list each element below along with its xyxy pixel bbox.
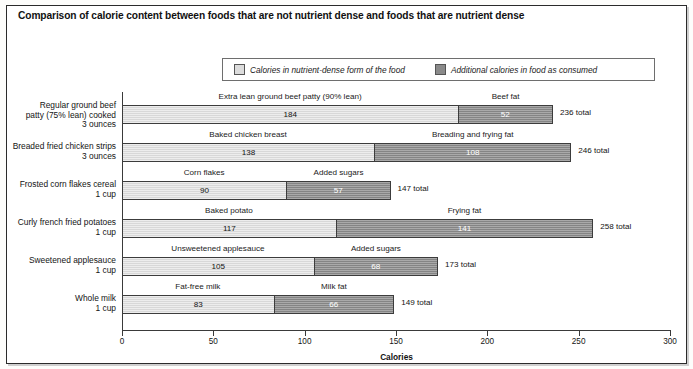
stacked-bar[interactable]: 8366 — [122, 295, 394, 314]
segment-labels: Corn flakesAdded sugars — [122, 168, 670, 181]
x-axis-tick-labels: 050100150200250300 — [122, 337, 671, 349]
bar-segment-light-value: 105 — [212, 262, 226, 271]
segment-labels: Extra lean ground beef patty (90% lean)B… — [122, 92, 670, 105]
bar-segment-dark-value: 108 — [466, 148, 480, 157]
category-label-2: Breaded fried chicken strips 3 ounces — [0, 130, 116, 168]
segment-label-dark: Frying fat — [448, 206, 482, 215]
category-label-text: Regular ground beef patty (75% lean) coo… — [26, 101, 116, 130]
bar-segment-dark[interactable]: 57 — [286, 182, 389, 199]
bar-segment-light[interactable]: 90 — [123, 182, 286, 199]
bar-segment-light[interactable]: 117 — [123, 220, 336, 237]
x-axis-title: Calories — [122, 352, 671, 362]
plot-area: Extra lean ground beef patty (90% lean)B… — [122, 92, 670, 329]
bar-segment-dark-value: 141 — [458, 224, 472, 233]
bar-segment-dark-value: 68 — [371, 262, 380, 271]
bar-segment-dark[interactable]: 66 — [274, 296, 394, 313]
x-axis-tick — [122, 331, 123, 336]
segment-label-light: Extra lean ground beef patty (90% lean) — [219, 92, 362, 101]
category-label-text: Curly french fried potatoes 1 cup — [18, 218, 116, 237]
segment-labels: Unsweetened applesauceAdded sugars — [122, 244, 670, 257]
bar-segment-dark-value: 52 — [501, 110, 510, 119]
segment-labels: Fat-free milkMilk fat — [122, 282, 670, 295]
category-label-text: Whole milk 1 cup — [75, 294, 116, 313]
segment-label-dark: Added sugars — [313, 168, 363, 177]
legend-swatch-light-icon — [234, 64, 245, 75]
category-label-4: Curly french fried potatoes 1 cup — [0, 206, 116, 244]
category-label-text: Breaded fried chicken strips 3 ounces — [13, 142, 116, 161]
category-label-text: Sweetened applesauce 1 cup — [29, 256, 116, 275]
bar-segment-dark[interactable]: 108 — [374, 144, 570, 161]
bar-segment-dark-value: 66 — [329, 300, 338, 309]
bar-segment-light[interactable]: 184 — [123, 106, 458, 123]
bar-row: Baked potatoFrying fat117141258 total — [122, 206, 670, 244]
bar-segment-light-value: 83 — [194, 300, 203, 309]
bar-segment-dark[interactable]: 68 — [314, 258, 437, 275]
segment-label-dark: Milk fat — [321, 282, 347, 291]
stacked-bar[interactable]: 138108 — [122, 143, 571, 162]
stacked-bar[interactable]: 9057 — [122, 181, 391, 200]
bar-total-label: 173 total — [445, 260, 476, 269]
segment-label-light: Fat-free milk — [175, 282, 220, 291]
x-axis-tick-label: 50 — [209, 337, 218, 346]
bar-total-label: 236 total — [560, 108, 591, 117]
segment-label-dark: Added sugars — [351, 244, 401, 253]
bar-segment-light-value: 117 — [223, 224, 236, 233]
bar-row: Baked chicken breastBreading and frying … — [122, 130, 670, 168]
legend-label-light: Calories in nutrient-dense form of the f… — [250, 65, 405, 75]
category-label-3: Frosted corn flakes cereal 1 cup — [0, 168, 116, 206]
bar-rows: Extra lean ground beef patty (90% lean)B… — [122, 92, 670, 320]
x-axis-tick — [579, 331, 580, 336]
bar-row: Extra lean ground beef patty (90% lean)B… — [122, 92, 670, 130]
x-axis-tick-label: 0 — [120, 337, 125, 346]
legend-item-nutrient-dense: Calories in nutrient-dense form of the f… — [234, 64, 405, 75]
legend-label-dark: Additional calories in food as consumed — [451, 65, 597, 75]
x-axis-tick-label: 250 — [572, 337, 586, 346]
bar-segment-dark[interactable]: 52 — [458, 106, 553, 123]
bar-segment-light[interactable]: 83 — [123, 296, 274, 313]
category-label-5: Sweetened applesauce 1 cup — [0, 244, 116, 282]
stacked-bar[interactable]: 10568 — [122, 257, 438, 276]
bar-row: Fat-free milkMilk fat8366149 total — [122, 282, 670, 320]
category-label-text: Frosted corn flakes cereal 1 cup — [20, 180, 116, 199]
bar-segment-light-value: 184 — [284, 110, 298, 119]
segment-label-dark: Beef fat — [492, 92, 520, 101]
segment-label-dark: Breading and frying fat — [432, 130, 513, 139]
bar-total-label: 246 total — [578, 146, 609, 155]
stacked-bar[interactable]: 117141 — [122, 219, 593, 238]
x-axis-tick — [670, 331, 671, 336]
category-label-1: Regular ground beef patty (75% lean) coo… — [0, 92, 116, 130]
category-axis-labels: Regular ground beef patty (75% lean) coo… — [0, 92, 116, 320]
segment-label-light: Unsweetened applesauce — [171, 244, 264, 253]
x-axis-tick-label: 300 — [663, 337, 677, 346]
bar-segment-dark[interactable]: 141 — [336, 220, 592, 237]
legend-item-additional: Additional calories in food as consumed — [435, 64, 597, 75]
category-label-6: Whole milk 1 cup — [0, 282, 116, 320]
stacked-bar[interactable]: 18452 — [122, 105, 553, 124]
bar-segment-dark-value: 57 — [334, 186, 343, 195]
bar-total-label: 147 total — [398, 184, 429, 193]
legend-swatch-dark-icon — [435, 64, 446, 75]
bar-segment-light-value: 90 — [200, 186, 209, 195]
bar-segment-light[interactable]: 138 — [123, 144, 374, 161]
bar-segment-light[interactable]: 105 — [123, 258, 314, 275]
chart-title: Comparison of calorie content between fo… — [18, 10, 524, 21]
bar-row: Corn flakesAdded sugars9057147 total — [122, 168, 670, 206]
chart-page: Comparison of calorie content between fo… — [0, 0, 693, 369]
bar-row: Unsweetened applesauceAdded sugars105681… — [122, 244, 670, 282]
chart-legend: Calories in nutrient-dense form of the f… — [222, 58, 655, 81]
x-axis-tick-label: 150 — [389, 337, 403, 346]
x-axis-tick — [305, 331, 306, 336]
bar-total-label: 149 total — [401, 298, 432, 307]
segment-labels: Baked chicken breastBreading and frying … — [122, 130, 670, 143]
segment-label-light: Baked potato — [205, 206, 253, 215]
x-axis-tick — [396, 331, 397, 336]
segment-label-light: Baked chicken breast — [209, 130, 286, 139]
segment-label-light: Corn flakes — [184, 168, 225, 177]
x-axis-tick — [487, 331, 488, 336]
segment-labels: Baked potatoFrying fat — [122, 206, 670, 219]
bar-segment-light-value: 138 — [242, 148, 256, 157]
x-axis-tick-label: 100 — [298, 337, 312, 346]
x-axis-tick-label: 200 — [480, 337, 494, 346]
bar-total-label: 258 total — [600, 222, 631, 231]
x-axis-tick — [213, 331, 214, 336]
